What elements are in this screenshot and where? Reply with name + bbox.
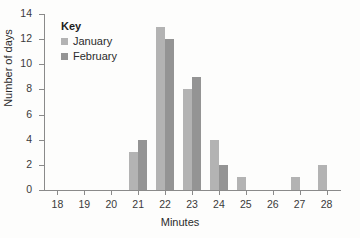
x-tick (219, 190, 220, 195)
y-tick: 8 (39, 89, 44, 90)
x-tick-label: 25 (240, 198, 252, 211)
bar-january-28 (318, 165, 327, 190)
bar-february-21 (138, 140, 147, 190)
x-tick-label: 23 (186, 198, 198, 211)
x-tick-label: 22 (159, 198, 171, 211)
x-tick (138, 190, 139, 195)
bar-january-27 (291, 177, 300, 190)
x-tick (57, 190, 58, 195)
x-tick (273, 190, 274, 195)
x-tick-label: 24 (213, 198, 225, 211)
x-tick (327, 190, 328, 195)
bar-january-21 (129, 152, 138, 190)
y-tick-label: 12 (20, 32, 32, 45)
x-tick-label: 28 (321, 198, 333, 211)
y-tick: 12 (39, 39, 44, 40)
bar-february-23 (192, 77, 201, 190)
legend: Key January February (61, 20, 117, 63)
y-tick-label: 0 (26, 183, 32, 196)
legend-label-february: February (73, 50, 117, 63)
y-axis-title: Number of days (2, 8, 14, 128)
x-tick-label: 21 (132, 198, 144, 211)
y-tick-label: 8 (26, 82, 32, 95)
y-tick-label: 2 (26, 158, 32, 171)
y-tick: 4 (39, 140, 44, 141)
y-tick-label: 4 (26, 133, 32, 146)
bar-january-25 (237, 177, 246, 190)
legend-item-january: January (61, 35, 117, 48)
bar-january-24 (210, 140, 219, 190)
x-axis-title: Minutes (0, 216, 360, 228)
bar-february-24 (219, 165, 228, 190)
y-tick-label: 10 (20, 57, 32, 70)
x-tick (84, 190, 85, 195)
y-tick: 0 (39, 190, 44, 191)
legend-title: Key (61, 20, 117, 32)
x-tick (111, 190, 112, 195)
bar-february-22 (165, 39, 174, 190)
x-tick-label: 18 (52, 198, 64, 211)
x-tick (192, 190, 193, 195)
y-tick-label: 6 (26, 108, 32, 121)
x-tick (246, 190, 247, 195)
x-tick (165, 190, 166, 195)
y-tick: 6 (39, 115, 44, 116)
legend-swatch-february-icon (61, 53, 68, 60)
x-tick-label: 27 (294, 198, 306, 211)
bar-january-23 (183, 89, 192, 190)
y-tick: 10 (39, 64, 44, 65)
x-tick-label: 19 (79, 198, 91, 211)
legend-swatch-january-icon (61, 38, 68, 45)
x-tick-label: 20 (105, 198, 117, 211)
legend-label-january: January (73, 35, 112, 48)
bar-january-22 (156, 27, 165, 190)
x-tick (300, 190, 301, 195)
bar-chart: 02468101214 1819202122232425262728 Numbe… (0, 0, 360, 238)
y-tick: 14 (39, 14, 44, 15)
y-tick: 2 (39, 165, 44, 166)
legend-item-february: February (61, 50, 117, 63)
y-tick-label: 14 (20, 7, 32, 20)
x-tick-label: 26 (267, 198, 279, 211)
